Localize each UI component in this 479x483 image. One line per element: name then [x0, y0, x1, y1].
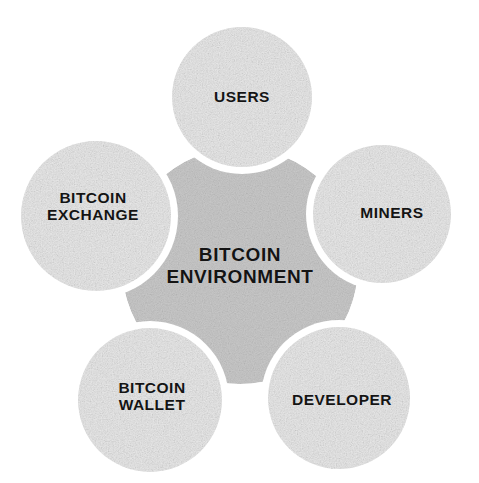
satellite-circle-miners[interactable] [313, 145, 451, 283]
satellite-circle-bitcoin-exchange[interactable] [21, 141, 171, 291]
satellite-circle-users[interactable] [172, 27, 312, 167]
bitcoin-environment-diagram: BITCOIN ENVIRONMENT USERS MINERS BITCOIN… [0, 0, 479, 483]
satellite-circle-developer[interactable] [268, 327, 410, 469]
diagram-shapes [0, 0, 479, 483]
satellite-circle-bitcoin-wallet[interactable] [78, 328, 222, 472]
